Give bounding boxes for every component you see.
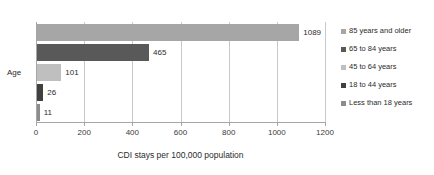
bar[interactable] [37,24,299,41]
legend-label: Less than 18 years [349,99,412,107]
tick-mark [84,122,85,126]
legend-label: 85 years and older [349,27,411,35]
legend: 85 years and older65 to 84 years45 to 64… [341,22,433,112]
legend-item[interactable]: Less than 18 years [341,94,433,112]
legend-swatch-icon [341,101,346,106]
bar-value-label: 11 [40,108,52,117]
bar[interactable] [37,44,149,61]
x-tick-label: 600 [174,128,187,137]
legend-item[interactable]: 85 years and older [341,22,433,40]
legend-swatch-icon [341,83,346,88]
legend-swatch-icon [341,65,346,70]
x-tick-label: 0 [34,128,38,137]
x-tick-label: 400 [126,128,139,137]
tick-mark [229,122,230,126]
x-tick-label: 800 [222,128,235,137]
bar-value-label: 101 [61,68,78,77]
legend-swatch-icon [341,47,346,52]
x-tick-label: 1000 [268,128,286,137]
bar-row: 101 [37,64,326,81]
bar-value-label: 26 [43,88,56,97]
legend-label: 65 to 84 years [349,45,397,53]
legend-item[interactable]: 45 to 64 years [341,58,433,76]
legend-label: 18 to 44 years [349,81,397,89]
x-tick-label: 1200 [316,128,334,137]
bar-chart: Age 020040060080010001200 10894651012611… [0,0,434,175]
legend-item[interactable]: 18 to 44 years [341,76,433,94]
legend-item[interactable]: 65 to 84 years [341,40,433,58]
tick-mark [181,122,182,126]
legend-label: 45 to 64 years [349,63,397,71]
bar-row: 1089 [37,24,326,41]
bar-value-label: 1089 [299,28,321,37]
bar[interactable] [37,64,61,81]
tick-mark [132,122,133,126]
plot-area: 020040060080010001200 10894651012611 [36,22,325,122]
bar-row: 11 [37,104,326,121]
bar-row: 26 [37,84,326,101]
legend-swatch-icon [341,29,346,34]
tick-mark [36,122,37,126]
x-tick-label: 200 [77,128,90,137]
category-axis-title: Age [7,68,21,77]
tick-mark [277,122,278,126]
tick-mark [325,122,326,126]
bar-value-label: 465 [149,48,166,57]
bar-row: 465 [37,44,326,61]
x-axis-title: CDI stays per 100,000 population [36,150,325,160]
